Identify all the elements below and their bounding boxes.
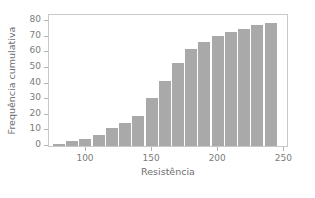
y-tick-label: 60 xyxy=(30,45,41,55)
bar xyxy=(212,36,224,146)
bar xyxy=(119,123,131,146)
y-tick-label: 0 xyxy=(35,139,41,149)
bar xyxy=(53,144,65,146)
bar xyxy=(225,32,237,146)
y-tick-label: 70 xyxy=(30,30,41,40)
bar xyxy=(79,139,91,146)
x-tick-label: 100 xyxy=(76,153,93,163)
x-tick-label: 200 xyxy=(209,153,226,163)
plot-area xyxy=(48,14,288,147)
y-tick-label: 50 xyxy=(30,61,41,71)
bar xyxy=(251,25,263,146)
bar xyxy=(172,63,184,146)
bar xyxy=(106,128,118,146)
y-tick-label: 30 xyxy=(30,92,41,102)
x-tick-mark xyxy=(217,147,218,151)
x-tick-mark xyxy=(151,147,152,151)
bar xyxy=(265,23,277,146)
x-tick-mark xyxy=(283,147,284,151)
y-axis-title: Frequência cumulativa xyxy=(6,14,18,147)
bar xyxy=(93,135,105,146)
bar xyxy=(159,81,171,147)
x-axis-title: Resistência xyxy=(48,166,288,177)
bar xyxy=(185,49,197,146)
y-tick-label: 10 xyxy=(30,123,41,133)
bar xyxy=(66,141,78,146)
bar xyxy=(238,29,250,146)
y-tick-label: 20 xyxy=(30,108,41,118)
x-tick-label: 150 xyxy=(143,153,160,163)
y-tick-label: 80 xyxy=(30,14,41,24)
bar xyxy=(198,42,210,146)
x-tick-mark xyxy=(85,147,86,151)
cumulative-frequency-chart: 01020304050607080 100150200250 Resistênc… xyxy=(0,0,315,198)
x-tick-label: 250 xyxy=(275,153,292,163)
bar xyxy=(146,98,158,146)
bar xyxy=(132,116,144,146)
y-tick-label: 40 xyxy=(30,77,41,87)
